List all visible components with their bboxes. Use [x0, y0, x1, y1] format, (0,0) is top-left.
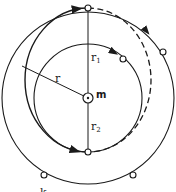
label-r: r	[55, 72, 61, 85]
arrow-outer-icon	[144, 28, 148, 33]
marker-outer-bottom-right	[130, 172, 136, 178]
label-r2: r2	[91, 120, 101, 134]
marker-outer-bottom-left	[41, 172, 47, 178]
label-r1: r1	[91, 51, 101, 65]
marker-bottom	[85, 149, 91, 155]
arrow-top-icon	[72, 9, 80, 10]
marker-inner-right	[120, 56, 126, 62]
center-dot-icon	[87, 97, 89, 99]
marker-outer-right	[160, 49, 166, 55]
bottom-text-fragment: k	[40, 186, 47, 192]
label-m: m	[96, 89, 106, 100]
marker-top	[85, 5, 91, 11]
orbit-diagram: r r1 r2 m k	[0, 0, 176, 192]
